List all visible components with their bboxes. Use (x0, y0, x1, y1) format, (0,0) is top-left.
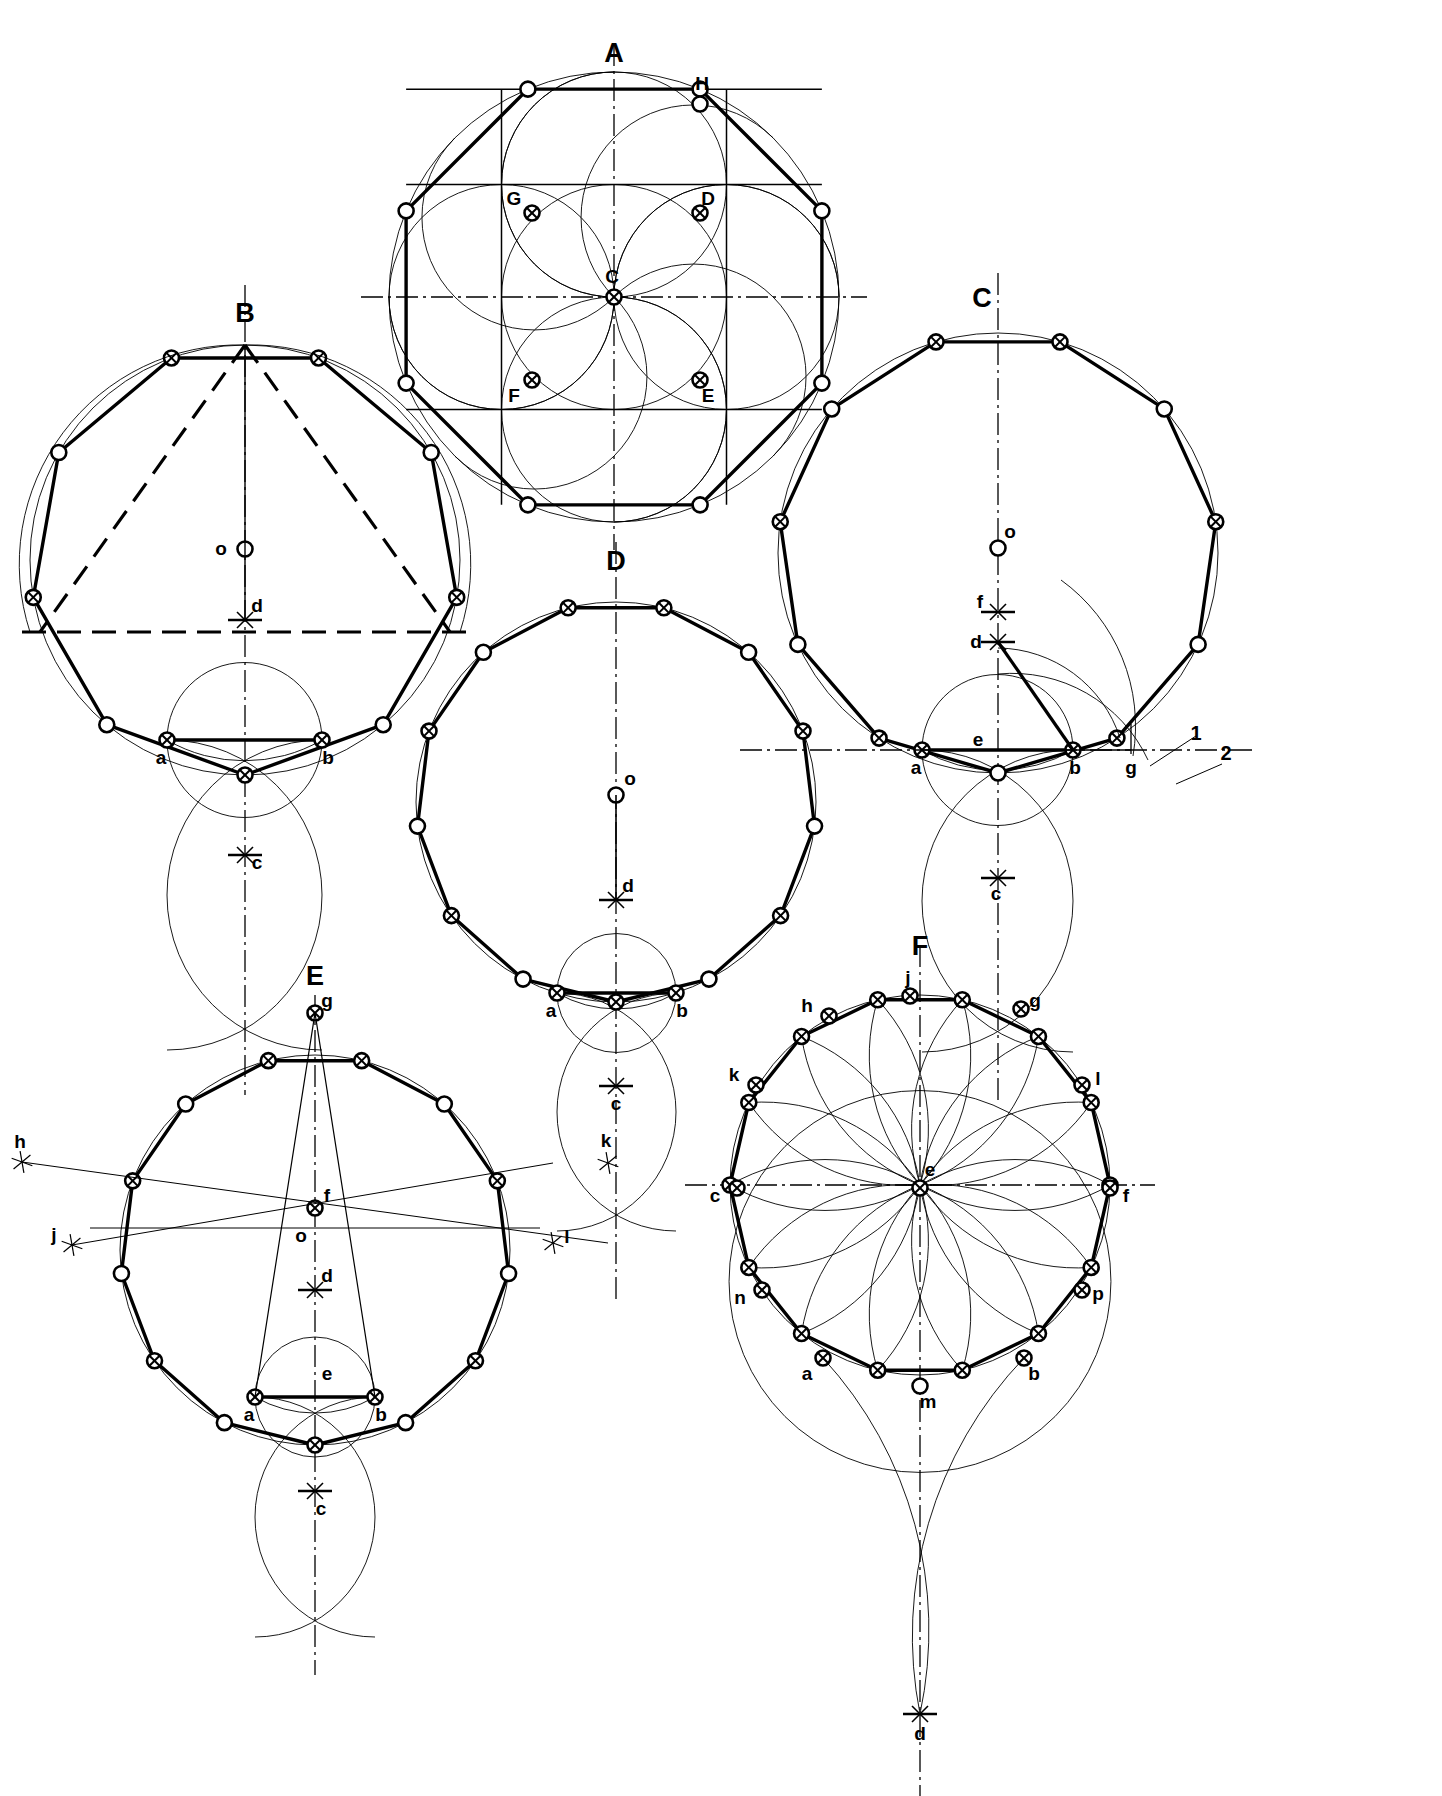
figure-b-label-o: o (215, 538, 227, 559)
figure-b-label-b: b (322, 747, 334, 768)
figure-b-label-a: a (156, 747, 167, 768)
figure-d-title: D (606, 546, 626, 576)
figure-a-label-E: E (702, 385, 715, 406)
figure-e-label-j: j (50, 1224, 56, 1245)
figure-f-label-e: e (925, 1159, 936, 1180)
figure-c-annotation-2: 2 (1220, 742, 1231, 764)
figure-a-label-D: D (701, 188, 715, 209)
figure-d-label-d: d (622, 875, 634, 896)
figure-f-label-d: d (914, 1723, 926, 1744)
figure-f-label-k: k (729, 1064, 740, 1085)
figure-d-label-o: o (624, 768, 636, 789)
figure-c-label-f: f (977, 591, 984, 612)
figure-f-label-l: l (1095, 1068, 1100, 1089)
figure-c-label-d: d (970, 631, 982, 652)
figure-a-label-F: F (508, 385, 520, 406)
figure-a-label-C: C (605, 266, 619, 287)
figure-c-label-o: o (1004, 521, 1016, 542)
figure-a-title: A (604, 38, 624, 68)
figure-e-label-a: a (244, 1404, 255, 1425)
figure-c-label-b: b (1069, 757, 1081, 778)
figure-f-label-n: n (734, 1287, 746, 1308)
figure-e-title: E (306, 961, 324, 991)
figure-c-label-e: e (973, 729, 984, 750)
figure-c-label-c: c (991, 883, 1002, 904)
figure-f-label-m: m (920, 1391, 937, 1412)
figure-f-label-a: a (802, 1363, 813, 1384)
figure-b-label-d: d (251, 595, 263, 616)
figure-e-label-l: l (564, 1226, 569, 1247)
figure-c-annotation-1: 1 (1190, 722, 1201, 744)
figure-f-label-p: p (1092, 1283, 1104, 1304)
drawing-sheet: CDEFGHAodabcBofdeabgc12CodabcDgfodeabchj… (0, 0, 1442, 1796)
label-layer: CDEFGHAodabcBofdeabgc12CodabcDgfodeabchj… (0, 0, 1442, 1796)
figure-f-label-b: b (1028, 1363, 1040, 1384)
figure-f-label-g: g (1029, 990, 1041, 1011)
figure-e-label-k: k (601, 1130, 612, 1151)
figure-f-title: F (912, 931, 929, 961)
figure-f-label-h: h (801, 995, 813, 1016)
figure-b-title: B (235, 298, 255, 328)
figure-c-title: C (972, 283, 992, 313)
figure-e-label-d: d (321, 1265, 333, 1286)
figure-e-label-e: e (322, 1363, 333, 1384)
figure-e-label-o: o (295, 1225, 307, 1246)
figure-a-label-H: H (695, 73, 709, 94)
figure-f-label-j: j (904, 967, 910, 988)
figure-e-label-h: h (14, 1131, 26, 1152)
figure-b-label-c: c (252, 852, 263, 873)
figure-f-label-c: c (710, 1185, 721, 1206)
figure-e-label-f: f (324, 1185, 331, 1206)
figure-e-label-g: g (321, 990, 333, 1011)
figure-e-label-b: b (375, 1404, 387, 1425)
figure-c-label-a: a (911, 757, 922, 778)
figure-c-label-g: g (1125, 757, 1137, 778)
figure-e-label-c: c (316, 1498, 327, 1519)
figure-d-label-a: a (546, 1000, 557, 1021)
figure-d-label-b: b (676, 1000, 688, 1021)
figure-a-label-G: G (507, 188, 522, 209)
figure-d-label-c: c (611, 1093, 622, 1114)
figure-f-label-f: f (1123, 1185, 1130, 1206)
